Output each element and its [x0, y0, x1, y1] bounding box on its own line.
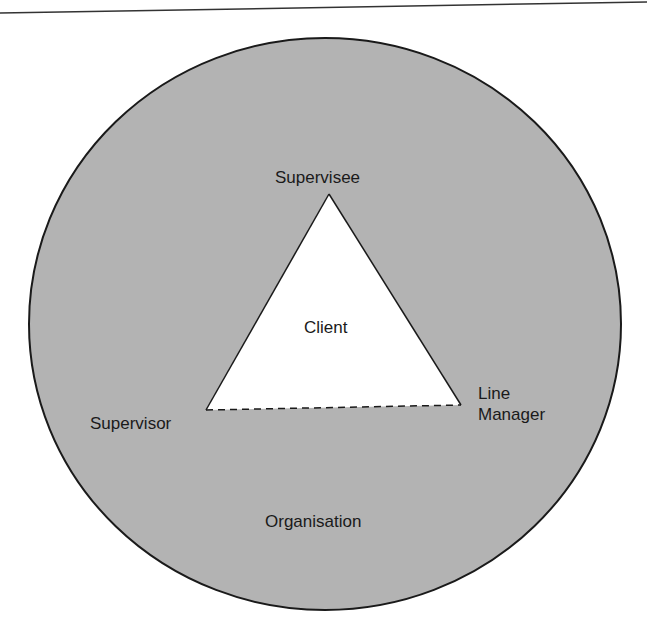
label-organisation: Organisation [265, 512, 361, 532]
label-line-manager-line2: Manager [478, 405, 545, 425]
label-supervisor: Supervisor [90, 414, 171, 434]
label-line-manager-line1: Line [478, 384, 510, 404]
top-rule [0, 2, 647, 13]
label-client: Client [304, 318, 347, 338]
label-supervisee: Supervisee [275, 168, 360, 188]
